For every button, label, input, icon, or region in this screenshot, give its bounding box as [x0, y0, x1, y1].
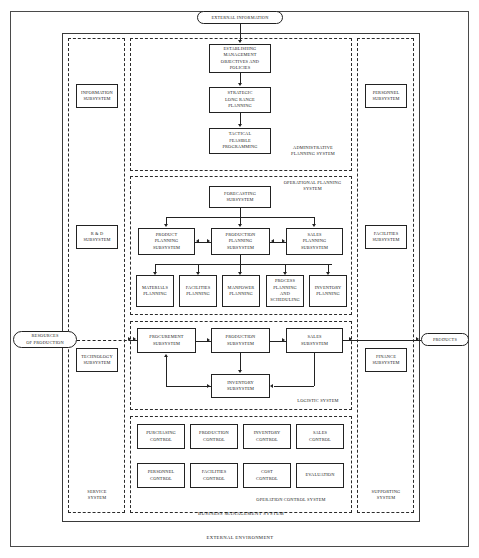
service-system-frame: [68, 38, 125, 513]
box-label: R & D SUBSYSTEM: [83, 231, 110, 244]
box-cost-control[interactable]: COST CONTROL: [243, 463, 291, 488]
connector-to-process-planning: [285, 264, 286, 272]
arrowhead-down: [238, 40, 242, 43]
box-label: PRODUCTION SUBSYSTEM: [226, 334, 256, 347]
service-system-label: SERVICE SYSTEM: [74, 489, 120, 501]
connector-establishing-to-strategic: [240, 73, 241, 83]
box-label: FACILITIES SUBSYSTEM: [372, 231, 399, 244]
arrowhead-right: [207, 384, 210, 388]
box-label: COST CONTROL: [256, 469, 278, 482]
arrowhead-left: [271, 239, 274, 243]
box-label: FACILITIES PLANNING: [186, 285, 211, 298]
box-facilities-subsystem[interactable]: FACILITIES SUBSYSTEM: [365, 225, 407, 249]
box-product-planning-subsystem[interactable]: PRODUCT PLANNING SUBSYSTEM: [138, 228, 195, 255]
arrowhead-down: [238, 370, 242, 373]
box-technology-subsystem[interactable]: TECHNOLOGY SUBSYSTEM: [76, 348, 118, 372]
connector-sales-to-inventory-v: [314, 353, 315, 386]
box-inventory-subsystem[interactable]: INVENTORY SUBSYSTEM: [211, 374, 270, 398]
box-personnel-control[interactable]: PERSONNEL CONTROL: [137, 463, 185, 488]
arrowhead-right: [282, 239, 285, 243]
operation-control-system-label: OPERATION CONTROL SYSTEM: [232, 497, 350, 503]
box-evaluation[interactable]: EVALUATION: [296, 463, 344, 488]
arrowhead-left: [196, 239, 199, 243]
box-forecasting-subsystem[interactable]: FORECASTING SUBSYSTEM: [209, 186, 271, 208]
box-label: INVENTORY CONTROL: [254, 430, 281, 443]
box-label: MATERIALS PLANNING: [142, 285, 168, 298]
business-management-system-label: BUSINESS MANAGEMENT SYSTEM: [141, 511, 341, 518]
box-label: FORECASTING SUBSYSTEM: [224, 191, 256, 204]
box-production-planning-subsystem[interactable]: PRODUCTION PLANNING SUBSYSTEM: [211, 228, 270, 255]
box-label: STRATEGIC LONG RANGE PLANNING: [225, 90, 255, 109]
arrowhead-right: [133, 337, 136, 341]
box-label: SALES SUBSYSTEM: [301, 334, 328, 347]
connector-production-planning-stem: [240, 255, 241, 264]
box-establishing-management-objectives[interactable]: ESTABLISHING MANAGEMENT OBJECTIVES AND P…: [209, 44, 271, 73]
box-strategic-long-range-planning[interactable]: STRATEGIC LONG RANGE PLANNING: [209, 87, 271, 113]
diagram-canvas: EXTERNAL INFORMATION RESOURCES OF PRODUC…: [0, 0, 479, 558]
box-label: PERSONNEL CONTROL: [148, 469, 175, 482]
box-production-subsystem[interactable]: PRODUCTION SUBSYSTEM: [211, 328, 270, 353]
box-facilities-planning[interactable]: FACILITIES PLANNING: [179, 275, 217, 307]
arrowhead-down: [312, 224, 316, 227]
arrowhead-right: [282, 338, 285, 342]
arrowhead-up: [164, 354, 168, 357]
box-label: PRODUCT PLANNING SUBSYSTEM: [153, 232, 180, 251]
box-inventory-control[interactable]: INVENTORY CONTROL: [243, 424, 291, 449]
connector-inventory-to-procurement-h: [166, 386, 211, 387]
box-information-subsystem[interactable]: INFORMATION SUBSYSTEM: [76, 84, 118, 108]
box-purchasing-control[interactable]: PURCHASING CONTROL: [137, 424, 185, 449]
box-label: INVENTORY PLANNING: [315, 285, 342, 298]
connector-to-manpower-planning: [240, 264, 241, 272]
box-personnel-subsystem[interactable]: PERSONNEL SUBSYSTEM: [365, 84, 407, 108]
connector-forecasting-to-sales: [314, 217, 315, 224]
box-label: PROCUREMENT SUBSYSTEM: [149, 334, 183, 347]
box-label: TECHNOLOGY SUBSYSTEM: [81, 354, 113, 367]
resources-of-production-label: RESOURCES OF PRODUCTION: [26, 333, 64, 345]
box-label: INVENTORY SUBSYSTEM: [227, 380, 254, 393]
box-sales-control[interactable]: SALES CONTROL: [296, 424, 344, 449]
arrowhead-left: [270, 384, 273, 388]
supporting-system-label: SUPPORTING SYSTEM: [363, 489, 409, 501]
products-terminator: PRODUCTS: [421, 333, 469, 346]
connector-forecasting-to-product: [166, 217, 167, 224]
operational-planning-system-label: OPERATIONAL PLANNING SYSTEM: [275, 180, 350, 192]
box-procurement-subsystem[interactable]: PROCUREMENT SUBSYSTEM: [137, 328, 196, 353]
box-label: PRODUCTION CONTROL: [199, 430, 229, 443]
box-manpower-planning[interactable]: MANPOWER PLANNING: [222, 275, 260, 307]
box-materials-planning[interactable]: MATERIALS PLANNING: [136, 275, 174, 307]
box-production-control[interactable]: PRODUCTION CONTROL: [190, 424, 238, 449]
box-label: PURCHASING CONTROL: [146, 430, 176, 443]
connector-forecasting-stem: [240, 208, 241, 217]
box-rd-subsystem[interactable]: R & D SUBSYSTEM: [76, 225, 118, 249]
box-process-planning-and-scheduling[interactable]: PROCESS PLANNING AND SCHEDULING: [266, 275, 304, 307]
box-label: FINANCE SUBSYSTEM: [372, 354, 399, 367]
connector-sales-to-inventory-h: [274, 386, 314, 387]
box-sales-subsystem[interactable]: SALES SUBSYSTEM: [286, 328, 343, 353]
logistic-system-label: LOGISTIC SYSTEM: [288, 398, 348, 404]
supporting-system-frame: [357, 38, 414, 513]
arrowhead-down: [238, 124, 242, 127]
box-facilities-control[interactable]: FACILITIES CONTROL: [190, 463, 238, 488]
arrowhead-right: [207, 338, 210, 342]
arrowhead-right: [207, 239, 210, 243]
box-label: FACILITIES CONTROL: [202, 469, 227, 482]
box-sales-planning-subsystem[interactable]: SALES PLANNING SUBSYSTEM: [286, 228, 343, 255]
arrowhead-down: [238, 83, 242, 86]
connector-strategic-to-tactical: [240, 113, 241, 124]
external-environment-label: EXTERNAL ENVIRONMENT: [140, 535, 340, 542]
resources-flow-line-left: [77, 340, 132, 341]
connector-forecasting-to-production: [240, 217, 241, 224]
arrowhead-right: [416, 337, 419, 341]
products-flow-line-right: [343, 340, 421, 341]
arrowhead-down: [164, 224, 168, 227]
box-label: SALES CONTROL: [309, 430, 331, 443]
box-label: EVALUATION: [306, 472, 335, 478]
connector-to-facilities-planning: [198, 264, 199, 272]
connector-inventory-to-procurement-v: [166, 357, 167, 386]
box-finance-subsystem[interactable]: FINANCE SUBSYSTEM: [365, 348, 407, 372]
arrowhead-right: [349, 337, 352, 341]
box-label: ESTABLISHING MANAGEMENT OBJECTIVES AND P…: [221, 46, 259, 72]
box-inventory-planning[interactable]: INVENTORY PLANNING: [309, 275, 347, 307]
box-tactical-feasible-programming[interactable]: TACTICAL FEASIBLE PROGRAMMING: [209, 128, 271, 154]
box-label: TACTICAL FEASIBLE PROGRAMMING: [222, 131, 257, 150]
